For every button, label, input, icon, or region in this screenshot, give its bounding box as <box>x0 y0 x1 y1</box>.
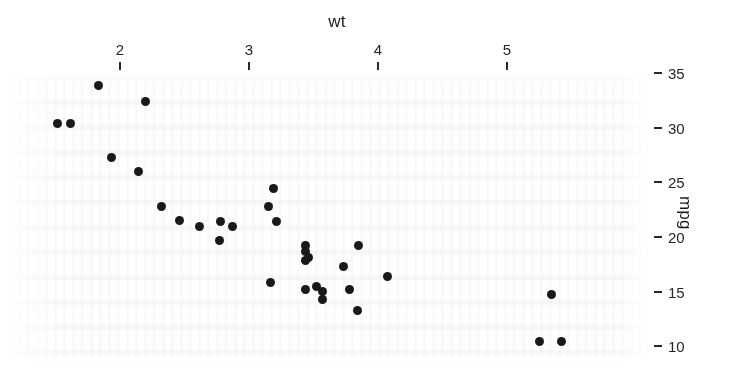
data-point <box>557 337 566 346</box>
data-point <box>157 202 166 211</box>
data-point <box>228 222 237 231</box>
scatter-plot-figure: wt mpg 2345 353025201510 <box>0 0 756 373</box>
plot-area <box>0 0 756 373</box>
data-point <box>195 222 204 231</box>
data-point <box>339 262 348 271</box>
data-point <box>141 97 150 106</box>
data-point <box>216 217 225 226</box>
data-point <box>547 290 556 299</box>
data-point <box>535 337 544 346</box>
data-point <box>264 202 273 211</box>
data-point <box>107 153 116 162</box>
data-point <box>215 236 224 245</box>
data-point <box>266 278 275 287</box>
data-point <box>134 167 143 176</box>
data-point <box>94 81 103 90</box>
data-point <box>175 216 184 225</box>
data-point <box>269 184 278 193</box>
data-point <box>354 241 363 250</box>
data-point <box>353 306 362 315</box>
data-point <box>345 285 354 294</box>
data-point <box>272 217 281 226</box>
data-point <box>383 272 392 281</box>
data-point <box>53 119 62 128</box>
data-point <box>301 285 310 294</box>
data-point <box>318 295 327 304</box>
data-point <box>66 119 75 128</box>
data-point <box>318 287 327 296</box>
data-point <box>301 256 310 265</box>
